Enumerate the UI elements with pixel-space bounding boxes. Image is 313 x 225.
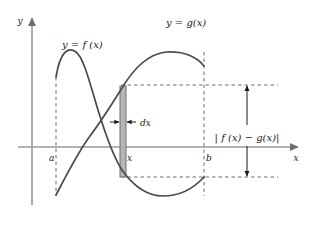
dx-strip-rect <box>120 86 126 177</box>
g-curve-label: y = g(x) <box>165 17 206 28</box>
tick-label-b: b <box>206 153 212 163</box>
g-curve-path <box>56 52 204 195</box>
dx-strip <box>120 86 126 177</box>
f-curve-path <box>56 50 204 196</box>
area-between-curves-figure: y x y = f (x) y = g(x) a x b dx | f (x) … <box>0 0 313 225</box>
tick-label-x: x <box>127 153 132 163</box>
dx-label: dx <box>140 118 151 128</box>
boundary-dashed-lines <box>56 52 204 196</box>
curves-group <box>56 50 204 196</box>
axes-group <box>18 18 298 205</box>
f-curve-label: y = f (x) <box>61 39 103 50</box>
difference-label: | f (x) − g(x)| <box>215 132 280 144</box>
tick-label-a: a <box>49 153 54 163</box>
y-axis-label: y <box>16 16 23 26</box>
level-dashed-lines <box>121 85 278 177</box>
x-axis-label: x <box>293 153 298 163</box>
